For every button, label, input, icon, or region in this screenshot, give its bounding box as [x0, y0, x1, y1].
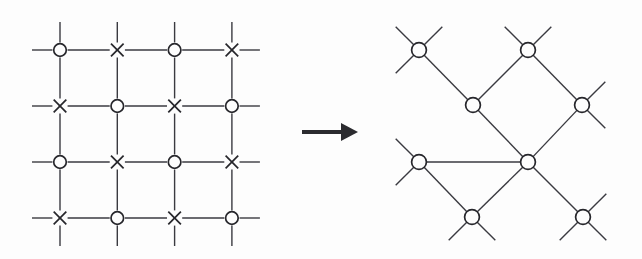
lattice-node-circle	[576, 210, 591, 225]
lattice-stub-diagonal	[396, 27, 414, 45]
lattice-transformation-figure	[0, 0, 642, 259]
lattice-stub-diagonal	[396, 167, 414, 185]
lattice-node-cross	[168, 212, 181, 225]
lattice-stub-diagonal	[505, 27, 523, 45]
lattice-node-cross	[54, 100, 67, 113]
lattice-node-cross	[168, 100, 181, 113]
lattice-stub-diagonal	[533, 27, 551, 45]
lattice-node-circle	[412, 43, 427, 58]
lattice-edge-diagonal	[477, 167, 522, 212]
lattice-node-circle	[111, 212, 124, 225]
lattice-node-circle	[521, 43, 536, 58]
lattice-stub-diagonal	[396, 139, 414, 157]
lattice-edge-diagonal	[533, 55, 577, 99]
lattice-edge-diagonal	[424, 167, 467, 211]
lattice-node-circle	[111, 100, 124, 113]
lattice-node-cross	[111, 156, 124, 169]
lattice-edge-diagonal	[478, 55, 523, 100]
lattice-stub-diagonal	[588, 222, 606, 240]
lattice-node-circle	[168, 156, 181, 169]
lattice-edge-diagonal	[424, 55, 468, 99]
arrow-head	[341, 123, 358, 141]
lattice-node-circle	[465, 210, 480, 225]
lattice-node-circle	[54, 44, 67, 57]
lattice-node-circle	[412, 155, 427, 170]
lattice-node-cross	[226, 44, 239, 57]
lattice-node-circle	[521, 155, 536, 170]
lattice-stub-diagonal	[587, 110, 605, 128]
square-lattice	[32, 22, 260, 246]
diagonal-lattice	[396, 27, 607, 241]
lattice-stub-diagonal	[560, 222, 578, 240]
lattice-node-cross	[226, 156, 239, 169]
lattice-stub-diagonal	[396, 55, 414, 73]
lattice-node-cross	[54, 212, 67, 225]
lattice-stub-diagonal	[587, 82, 605, 100]
figure-canvas	[0, 0, 642, 259]
lattice-stub-diagonal	[424, 27, 442, 45]
lattice-stub-diagonal	[449, 222, 467, 240]
lattice-node-circle	[575, 98, 590, 113]
lattice-node-circle	[226, 212, 239, 225]
lattice-node-circle	[168, 44, 181, 57]
lattice-node-circle	[226, 100, 239, 113]
transform-arrow	[302, 123, 358, 141]
lattice-edge-diagonal	[533, 167, 578, 212]
lattice-edge-diagonal	[478, 110, 523, 156]
lattice-node-cross	[111, 44, 124, 57]
lattice-edge-diagonal	[533, 110, 577, 156]
lattice-stub-diagonal	[588, 194, 606, 212]
lattice-node-circle	[466, 98, 481, 113]
lattice-node-circle	[54, 156, 67, 169]
lattice-stub-diagonal	[477, 222, 495, 240]
